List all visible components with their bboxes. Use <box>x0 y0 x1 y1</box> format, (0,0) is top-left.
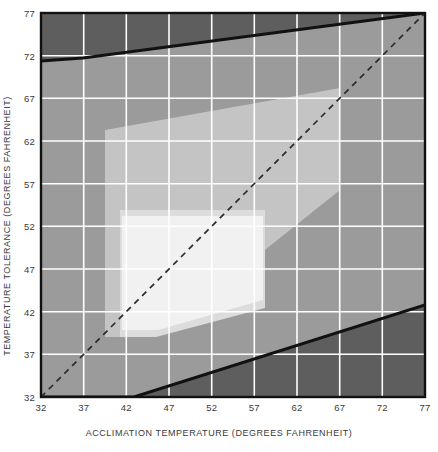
y-tick-37: 37 <box>13 349 35 360</box>
x-tick-47: 47 <box>164 402 175 413</box>
y-tick-42: 42 <box>13 306 35 317</box>
y-tick-47: 47 <box>13 264 35 275</box>
x-tick-57: 57 <box>249 402 260 413</box>
x-tick-52: 52 <box>206 402 217 413</box>
x-tick-37: 37 <box>78 402 89 413</box>
x-tick-72: 72 <box>377 402 388 413</box>
x-tick-62: 62 <box>292 402 303 413</box>
y-tick-32: 32 <box>13 392 35 403</box>
y-tick-52: 52 <box>13 221 35 232</box>
x-tick-32: 32 <box>36 402 47 413</box>
y-tick-62: 62 <box>13 136 35 147</box>
y-tick-72: 72 <box>13 50 35 61</box>
x-tick-67: 67 <box>334 402 345 413</box>
y-tick-67: 67 <box>13 93 35 104</box>
x-tick-42: 42 <box>121 402 132 413</box>
y-tick-57: 57 <box>13 178 35 189</box>
x-axis-title: ACCLIMATION TEMPERATURE (DEGREES FAHRENH… <box>0 428 438 438</box>
y-axis-title: TEMPERATURE TOLERANCE (DEGREES FAHRENHEI… <box>0 0 14 452</box>
x-tick-77: 77 <box>420 402 431 413</box>
plot-canvas <box>0 0 438 452</box>
y-tick-77: 77 <box>13 8 35 19</box>
temperature-tolerance-polygon-figure: 32 37 42 47 52 57 62 67 72 77 32 37 42 4… <box>0 0 438 452</box>
